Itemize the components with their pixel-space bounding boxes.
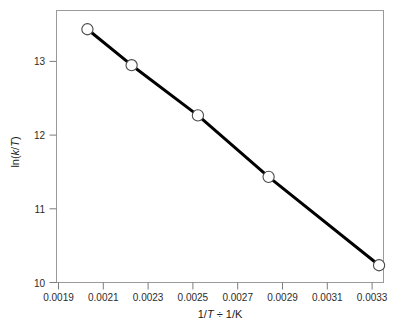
x-tick-label-5: 0.0029 — [267, 292, 298, 303]
x-tick-label-4: 0.0027 — [222, 292, 253, 303]
x-tick-label-2: 0.0023 — [133, 292, 164, 303]
data-series — [82, 24, 385, 271]
y-axis-title-pre: ln( — [9, 155, 21, 168]
data-point-3 — [263, 171, 274, 182]
eyring-plot-chart: 0.0019 0.0021 0.0023 0.0025 0.0027 0.002… — [0, 0, 397, 331]
x-axis-tick-labels: 0.0019 0.0021 0.0023 0.0025 0.0027 0.002… — [43, 292, 388, 303]
y-tick-label-3: 13 — [34, 56, 46, 67]
y-axis-title: ln(k/T) — [9, 136, 21, 167]
y-tick-label-1: 11 — [35, 204, 46, 215]
x-tick-label-6: 0.0031 — [312, 292, 343, 303]
x-axis-title: 1/T ÷ 1/K — [198, 308, 243, 320]
chart-page: 0.0019 0.0021 0.0023 0.0025 0.0027 0.002… — [0, 0, 397, 331]
y-axis-ticks — [50, 61, 57, 282]
x-tick-label-0: 0.0019 — [43, 292, 74, 303]
plot-frame — [57, 11, 384, 283]
y-tick-label-2: 12 — [34, 130, 46, 141]
x-tick-label-3: 0.0025 — [178, 292, 209, 303]
x-axis-ticks — [59, 283, 373, 290]
x-axis-title-mid: ÷ 1/K — [214, 308, 243, 320]
data-point-0 — [82, 24, 93, 35]
y-tick-label-0: 10 — [34, 278, 46, 289]
y-axis-tick-labels: 10 11 12 13 — [34, 56, 46, 288]
data-point-2 — [192, 110, 203, 121]
y-axis-title-post: ) — [9, 136, 21, 140]
x-tick-label-7: 0.0033 — [357, 292, 388, 303]
data-point-4 — [373, 260, 384, 271]
x-tick-label-1: 0.0021 — [88, 292, 119, 303]
data-point-1 — [126, 60, 137, 71]
